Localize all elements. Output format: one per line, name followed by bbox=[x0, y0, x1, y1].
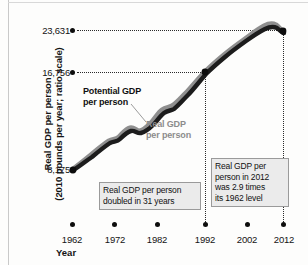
x-tick-dot-1992 bbox=[203, 222, 208, 227]
x-tick-dot-1972 bbox=[112, 222, 117, 227]
x-tick-label-1982: 1982 bbox=[137, 234, 177, 245]
x-tick-dot-2002 bbox=[245, 222, 250, 227]
data-point-1962 bbox=[70, 167, 77, 174]
x-tick-dot-1962 bbox=[70, 222, 75, 227]
x-tick-dot-1982 bbox=[155, 222, 160, 227]
x-axis-title: Year bbox=[56, 247, 76, 258]
x-tick-label-1972: 1972 bbox=[95, 234, 135, 245]
annotation-2012-vs-1962: Real GDP per person in 2012 was 2.9 time… bbox=[211, 158, 289, 207]
x-tick-label-2012: 2012 bbox=[264, 234, 304, 245]
x-tick-label-2002: 2002 bbox=[227, 234, 267, 245]
x-tick-label-1992: 1992 bbox=[185, 234, 225, 245]
x-tick-dot-2012 bbox=[281, 222, 286, 227]
annotation-doubled-in-31-years: Real GDP per person doubled in 31 years bbox=[99, 182, 201, 210]
data-point-1992 bbox=[202, 69, 209, 76]
series-label-potential-gdp: Potential GDP per person bbox=[83, 86, 141, 107]
series-label-real-gdp: Real GDP per person bbox=[146, 119, 191, 140]
data-point-2012 bbox=[280, 28, 287, 35]
x-tick-label-1962: 1962 bbox=[52, 234, 92, 245]
chart-figure: Real GDP per person (2010 pounds per yea… bbox=[0, 0, 308, 265]
